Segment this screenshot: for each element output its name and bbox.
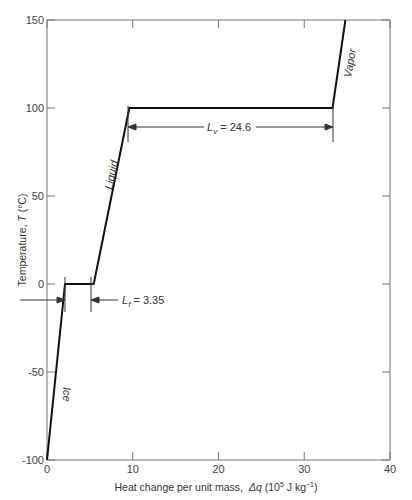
lf-label: Lf = 3.35 — [122, 294, 164, 309]
tick-labels: 010203040-100-50050100150 — [22, 14, 396, 475]
lv-label: Lv = 24.6 — [207, 121, 251, 136]
y-tick-label: 150 — [26, 14, 44, 26]
y-tick-label: 100 — [26, 102, 44, 114]
y-tick-label: 0 — [38, 278, 44, 290]
heating-curve-line — [47, 20, 345, 460]
liquid-label: Liquid — [102, 158, 120, 190]
y-tick-label: -50 — [28, 366, 44, 378]
y-tick-label: 50 — [32, 190, 44, 202]
y-tick-label: -100 — [22, 454, 44, 466]
x-tick-label: 30 — [298, 463, 310, 475]
ice-label: Ice — [61, 387, 73, 402]
latent-heat-fusion-annotation — [20, 277, 118, 312]
heating-curve-chart: 010203040-100-50050100150 Lf = 3.35 Lv =… — [0, 0, 412, 500]
axis-ticks — [47, 20, 390, 460]
plot-frame — [47, 20, 390, 460]
y-axis-label: Temperature, T (°C) — [16, 194, 28, 287]
x-tick-label: 10 — [127, 463, 139, 475]
x-tick-label: 20 — [212, 463, 224, 475]
x-tick-label: 0 — [44, 463, 50, 475]
x-axis-label: Heat change per unit mass,Δq (105 J kg−1… — [115, 481, 318, 493]
vapor-label: Vapor — [341, 46, 358, 78]
x-tick-label: 40 — [384, 463, 396, 475]
